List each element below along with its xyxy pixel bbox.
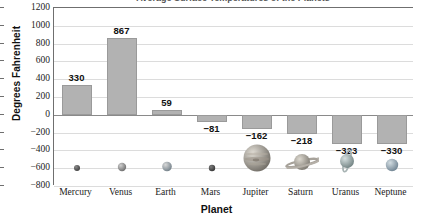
x-tick-label-mercury: Mercury — [59, 187, 92, 197]
x-tick-label-neptune: Neptune — [374, 187, 406, 197]
y-tick-label: −200 — [4, 127, 50, 137]
bar-value-label: 330 — [69, 72, 85, 83]
bar-value-label: −330 — [381, 145, 402, 156]
gridline — [54, 168, 413, 169]
y-tick-mark — [0, 167, 4, 168]
x-tick-label-uranus: Uranus — [332, 187, 359, 197]
gridline — [54, 150, 413, 151]
y-tick-mark — [0, 7, 4, 8]
bar-value-label: −218 — [291, 135, 312, 146]
y-tick-label: 200 — [4, 91, 50, 101]
saturn-icon — [285, 151, 319, 177]
mars-icon — [207, 159, 217, 177]
y-tick-mark — [0, 60, 4, 61]
y-tick-label: −400 — [4, 144, 50, 154]
mercury-icon — [72, 159, 82, 177]
y-tick-mark — [0, 96, 4, 97]
bar-value-label: 59 — [161, 97, 172, 108]
gridline — [54, 26, 413, 27]
bar-mercury — [62, 85, 92, 114]
y-tick-mark — [0, 185, 4, 186]
jupiter-icon — [242, 143, 272, 177]
uranus-icon — [336, 149, 358, 177]
y-tick-label: −800 — [4, 180, 50, 190]
y-tick-mark — [0, 78, 4, 79]
y-tick-mark — [0, 25, 4, 26]
bar-value-label: −81 — [203, 123, 219, 134]
plot-area: 33086759−81−162−218−323−330 — [53, 7, 413, 185]
bar-neptune — [377, 115, 407, 144]
neptune-icon — [384, 157, 400, 177]
y-tick-label: 1200 — [4, 2, 50, 12]
y-tick-label: 800 — [4, 38, 50, 48]
chart-title: Average Surface Temperatures of the Plan… — [53, 0, 413, 3]
earth-icon — [160, 159, 173, 177]
bar-earth — [152, 110, 182, 115]
y-tick-label: −600 — [4, 162, 50, 172]
x-tick-label-jupiter: Jupiter — [243, 187, 269, 197]
y-tick-mark — [0, 114, 4, 115]
y-tick-mark — [0, 132, 4, 133]
x-tick-label-mars: Mars — [201, 187, 221, 197]
bar-saturn — [287, 115, 317, 134]
bar-value-label: 867 — [114, 25, 130, 36]
y-tick-mark — [0, 149, 4, 150]
x-axis-title: Planet — [0, 203, 433, 215]
x-tick-label-earth: Earth — [155, 187, 176, 197]
bar-jupiter — [242, 115, 272, 129]
planet-temperature-bar-chart: Average Surface Temperatures of the Plan… — [0, 0, 433, 218]
y-tick-label: 600 — [4, 55, 50, 65]
bar-mars — [197, 115, 227, 122]
y-tick-label: 1000 — [4, 20, 50, 30]
bar-uranus — [332, 115, 362, 144]
x-tick-label-venus: Venus — [109, 187, 132, 197]
y-tick-label: 400 — [4, 73, 50, 83]
x-tick-label-saturn: Saturn — [288, 187, 313, 197]
bar-value-label: −162 — [246, 130, 267, 141]
venus-icon — [116, 159, 128, 177]
bar-venus — [107, 38, 137, 115]
y-tick-mark — [0, 43, 4, 44]
y-tick-label: 0 — [4, 109, 50, 119]
